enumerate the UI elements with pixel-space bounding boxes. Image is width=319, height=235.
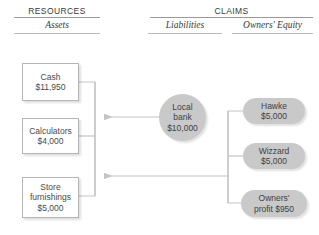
asset-amount: $5,000 (38, 203, 64, 214)
accounting-equation-diagram: RESOURCES Assets CLAIMS Liabilities Owne… (0, 0, 319, 235)
equity-ellipse-hawke: Hawke $5,000 (243, 98, 305, 124)
resources-heading: RESOURCES (14, 6, 100, 16)
liabilities-heading: Liabilities (148, 20, 222, 30)
asset-label: Calculators (29, 126, 72, 137)
equity-label: Owners' (259, 193, 290, 204)
liabilities-underline (148, 33, 222, 34)
asset-amount: $11,950 (35, 82, 65, 93)
asset-label: Store (40, 182, 60, 193)
owners-equity-heading: Owners' Equity (232, 20, 313, 30)
asset-box-store-furnishings: Store furnishings $5,000 (22, 177, 79, 218)
equity-ellipse-owners-profit: Owners' profit $950 (241, 190, 307, 217)
asset-label-2: furnishings (30, 192, 71, 203)
liability-amount: $10,000 (167, 123, 198, 134)
liability-label: Local (172, 102, 192, 113)
equity-label: Hawke (261, 101, 287, 112)
asset-label: Cash (41, 72, 61, 83)
equity-label: Wizzard (259, 146, 290, 157)
resources-underline (14, 17, 100, 18)
assets-heading: Assets (14, 20, 100, 30)
claims-underline (150, 17, 313, 18)
asset-box-cash: Cash $11,950 (22, 63, 79, 101)
claims-heading: CLAIMS (150, 6, 313, 16)
liability-label-2: bank (173, 112, 191, 123)
equity-amount: $5,000 (261, 156, 287, 167)
asset-amount: $4,000 (38, 136, 64, 147)
equity-amount: profit $950 (254, 204, 294, 215)
asset-box-calculators: Calculators $4,000 (22, 118, 79, 154)
equity-amount: $5,000 (261, 111, 287, 122)
assets-underline (14, 33, 100, 34)
equity-ellipse-wizzard: Wizzard $5,000 (243, 143, 305, 169)
owners-equity-underline (232, 33, 313, 34)
liability-ellipse-local-bank: Local bank $10,000 (159, 94, 206, 141)
